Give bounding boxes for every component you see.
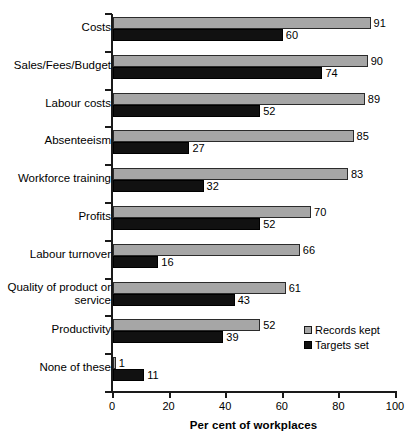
legend-swatch-targets-set-icon: [304, 341, 312, 349]
bar-value-targets-set: 27: [192, 142, 204, 154]
y-axis-category-label: Profits: [0, 210, 111, 223]
bar-group: Sales/Fees/Budget9074: [0, 52, 413, 90]
y-axis-category-label: Absenteeism: [0, 134, 111, 147]
bar-records-kept: [113, 93, 365, 105]
x-axis-tick-label: 40: [205, 400, 245, 412]
bar-value-records-kept: 52: [263, 319, 275, 331]
bar-records-kept: [113, 206, 311, 218]
bar-targets-set: [113, 331, 223, 343]
category-label-line: service: [0, 294, 111, 307]
bar-targets-set: [113, 369, 144, 381]
bar-value-records-kept: 70: [314, 206, 326, 218]
bar-records-kept: [113, 244, 300, 256]
bar-targets-set: [113, 29, 283, 41]
bar-targets-set: [113, 256, 158, 268]
bar-value-targets-set: 74: [325, 67, 337, 79]
category-label-line: Profits: [0, 210, 111, 223]
category-label-line: Absenteeism: [0, 134, 111, 147]
bar-records-kept: [113, 282, 286, 294]
y-axis-category-label: Quality of product orservice: [0, 281, 111, 307]
bar-targets-set: [113, 142, 189, 154]
category-label-line: Productivity: [0, 323, 111, 336]
category-label-line: Costs: [0, 21, 111, 34]
bar-group: Profits7052: [0, 203, 413, 241]
x-axis-tick: [395, 391, 397, 398]
bar-group: Labour costs8952: [0, 90, 413, 128]
bar-value-records-kept: 1: [119, 357, 125, 369]
bar-targets-set: [113, 294, 235, 306]
bar-records-kept: [113, 55, 368, 67]
category-label-line: Labour turnover: [0, 248, 111, 261]
bar-group: Costs9160: [0, 14, 413, 52]
bar-value-targets-set: 16: [161, 256, 173, 268]
x-axis-tick-label: 100: [375, 400, 413, 412]
bar-value-records-kept: 91: [374, 17, 386, 29]
bar-group: Labour turnover6616: [0, 241, 413, 279]
bar-value-targets-set: 11: [147, 369, 158, 381]
bar-targets-set: [113, 105, 260, 117]
bar-value-records-kept: 61: [289, 282, 301, 294]
bar-records-kept: [113, 168, 348, 180]
bar-records-kept: [113, 319, 260, 331]
bar-value-targets-set: 52: [263, 105, 275, 117]
x-axis-tick: [282, 391, 284, 398]
bar-value-records-kept: 85: [357, 130, 369, 142]
category-label-line: Labour costs: [0, 97, 111, 110]
y-axis-category-label: Labour costs: [0, 97, 111, 110]
x-axis-tick: [338, 391, 340, 398]
bar-group: Quality of product orservice6143: [0, 279, 413, 317]
category-label-line: Quality of product or: [0, 281, 111, 294]
x-axis-title: Per cent of workplaces: [112, 419, 395, 431]
bar-value-targets-set: 43: [238, 294, 250, 306]
bar-group: Absenteeism8527: [0, 127, 413, 165]
bar-group: Workforce training8332: [0, 165, 413, 203]
bar-chart: 020406080100 Per cent of workplaces Cost…: [0, 0, 413, 441]
y-axis-category-label: Productivity: [0, 323, 111, 336]
x-axis-tick: [169, 391, 171, 398]
legend-item-records-kept: Records kept: [304, 323, 380, 337]
bar-value-records-kept: 83: [351, 168, 363, 180]
cropped-title-artifact: [0, 0, 413, 5]
bar-group: None of these111: [0, 354, 413, 392]
x-axis-tick: [225, 391, 227, 398]
bar-targets-set: [113, 180, 204, 192]
bar-value-targets-set: 39: [226, 331, 238, 343]
legend-label-targets-set: Targets set: [315, 338, 369, 352]
bar-records-kept: [113, 357, 116, 369]
bar-value-records-kept: 66: [303, 244, 315, 256]
bar-value-records-kept: 89: [368, 93, 380, 105]
y-axis-category-label: None of these: [0, 361, 111, 374]
chart-legend: Records kept Targets set: [304, 323, 380, 353]
category-label-line: Sales/Fees/Budget: [0, 59, 111, 72]
x-axis-tick-label: 0: [92, 400, 132, 412]
bar-value-targets-set: 52: [263, 218, 275, 230]
x-axis-tick: [112, 391, 114, 398]
bar-value-records-kept: 90: [371, 55, 383, 67]
legend-label-records-kept: Records kept: [315, 323, 380, 337]
legend-swatch-records-kept-icon: [304, 326, 312, 334]
bar-targets-set: [113, 67, 322, 79]
x-axis-tick-label: 60: [262, 400, 302, 412]
y-axis-category-label: Workforce training: [0, 172, 111, 185]
x-axis-tick-label: 20: [149, 400, 189, 412]
bar-records-kept: [113, 17, 371, 29]
category-label-line: None of these: [0, 361, 111, 374]
x-axis-tick-label: 80: [318, 400, 358, 412]
legend-item-targets-set: Targets set: [304, 338, 380, 352]
bar-targets-set: [113, 218, 260, 230]
bar-value-targets-set: 60: [286, 29, 298, 41]
y-axis-category-label: Sales/Fees/Budget: [0, 59, 111, 72]
bar-records-kept: [113, 130, 354, 142]
bar-value-targets-set: 32: [207, 180, 219, 192]
category-label-line: Workforce training: [0, 172, 111, 185]
y-axis-category-label: Labour turnover: [0, 248, 111, 261]
y-axis-category-label: Costs: [0, 21, 111, 34]
